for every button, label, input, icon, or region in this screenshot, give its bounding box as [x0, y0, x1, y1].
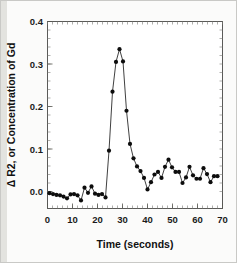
data-point — [51, 192, 55, 196]
x-tick-label: 70 — [217, 214, 228, 225]
data-point — [215, 174, 219, 178]
data-point — [180, 181, 184, 185]
x-tick-label: 0 — [45, 214, 50, 225]
line-chart: 010203040506070 0.00.10.20.30.4 Time (se… — [1, 1, 237, 263]
x-tick-label: 30 — [117, 214, 128, 225]
data-point — [128, 142, 132, 146]
data-point — [65, 196, 69, 200]
y-tick-label: 0.2 — [30, 101, 43, 112]
x-tick-label: 60 — [192, 214, 203, 225]
data-point — [152, 172, 156, 176]
data-point — [138, 169, 142, 173]
data-point — [47, 191, 51, 195]
data-point — [159, 176, 163, 180]
y-tick-label: 0.3 — [30, 59, 43, 70]
data-point — [156, 170, 160, 174]
y-axis-tick-labels: 0.00.10.20.30.4 — [30, 16, 44, 197]
data-point — [89, 184, 93, 188]
data-point — [142, 176, 146, 180]
data-point — [135, 164, 139, 168]
data-point — [166, 158, 170, 162]
data-point — [96, 193, 100, 197]
data-point — [205, 172, 209, 176]
data-point — [163, 165, 167, 169]
data-point — [100, 192, 104, 196]
data-point — [103, 195, 107, 199]
data-point — [208, 180, 212, 184]
data-point — [201, 166, 205, 170]
data-point — [170, 165, 174, 169]
y-axis-title: Δ R2, or Concentration of Gd — [5, 43, 17, 188]
x-tick-label: 50 — [167, 214, 178, 225]
x-axis-title: Time (seconds) — [97, 238, 174, 250]
y-tick-label: 0.0 — [30, 186, 43, 197]
data-point — [198, 177, 202, 181]
y-tick-label: 0.4 — [30, 16, 44, 27]
data-point — [75, 193, 79, 197]
x-tick-label: 10 — [67, 214, 78, 225]
data-point — [121, 59, 125, 63]
data-point — [131, 156, 135, 160]
figure-card: 010203040506070 0.00.10.20.30.4 Time (se… — [0, 0, 237, 263]
data-point — [107, 149, 111, 153]
x-tick-label: 20 — [92, 214, 103, 225]
data-point — [145, 187, 149, 191]
data-point — [149, 180, 153, 184]
data-point — [187, 165, 191, 169]
x-tick-label: 40 — [142, 214, 153, 225]
data-point — [79, 198, 83, 202]
x-axis-tick-labels: 010203040506070 — [45, 214, 228, 225]
data-point — [114, 60, 118, 64]
data-point — [184, 175, 188, 179]
data-point — [117, 47, 121, 51]
data-point — [110, 90, 114, 94]
data-point — [82, 186, 86, 190]
data-point — [191, 173, 195, 177]
data-point — [86, 191, 90, 195]
y-tick-label: 0.1 — [30, 144, 44, 155]
data-point — [177, 170, 181, 174]
data-point — [124, 109, 128, 113]
